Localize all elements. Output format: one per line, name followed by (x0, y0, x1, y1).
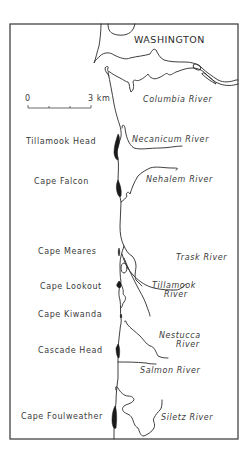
salmon-river (118, 362, 156, 364)
oregon-coast-map: WASHINGTON 0 3 km Tillamook Head Cape Fa… (0, 0, 251, 463)
river-label-nestucca-line2: River (176, 341, 200, 349)
cape-lookout-shape (117, 281, 121, 288)
river-label-nestucca: Nestucca (159, 332, 201, 340)
map-graphic (0, 0, 251, 463)
river-label-trask: Trask River (176, 254, 227, 262)
state-label-washington: WASHINGTON (134, 35, 205, 45)
map-border (10, 24, 238, 439)
cascade-head-shape (116, 344, 120, 358)
river-label-salmon: Salmon River (140, 367, 200, 375)
columbia-south-shore (105, 67, 238, 93)
river-label-tillamook: Tillamook (152, 282, 196, 290)
headland-label-cape-foulweather: Cape Foulweather (21, 413, 103, 421)
river-label-nehalem: Nehalem River (146, 176, 213, 184)
cape-falcon-shape (116, 180, 121, 197)
tillamook-river (124, 258, 150, 316)
columbia-island-2 (202, 73, 216, 84)
cape-kiwanda-shape (120, 314, 122, 318)
river-label-necanicum: Necanicum River (132, 136, 209, 144)
scale-start-label: 0 (25, 95, 31, 103)
headland-label-cape-meares: Cape Meares (38, 248, 97, 256)
headland-label-cape-lookout: Cape Lookout (40, 283, 102, 291)
nehalem-river (121, 167, 178, 202)
headland-label-tillamook-head: Tillamook Head (26, 138, 96, 146)
netarts-bay (121, 263, 127, 273)
headland-label-cascade-head: Cascade Head (38, 347, 103, 355)
river-label-columbia: Columbia River (143, 96, 212, 104)
washington-bay (108, 24, 135, 35)
scale-bar (28, 105, 91, 108)
coastline-and-rivers (94, 24, 238, 439)
cape-foulweather-shape (112, 406, 117, 429)
river-label-tillamook-line2: River (164, 291, 188, 299)
columbia-island-1 (192, 63, 201, 71)
river-label-siletz: Siletz River (161, 414, 213, 422)
headland-label-cape-kiwanda: Cape Kiwanda (38, 311, 102, 319)
washington-shore (94, 24, 238, 82)
cape-meares-shape (118, 248, 120, 256)
headland-label-cape-falcon: Cape Falcon (34, 178, 89, 186)
scale-end-label: 3 km (88, 95, 110, 103)
siletz-river (116, 387, 162, 436)
tillamook-head-shape (114, 134, 120, 160)
